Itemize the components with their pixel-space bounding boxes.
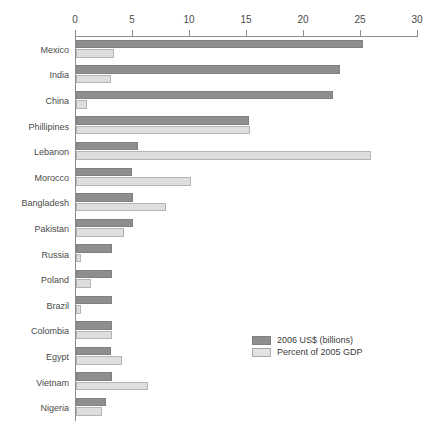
x-tick-label: 20: [297, 14, 308, 25]
bar-series-usd: [76, 398, 106, 407]
x-tick-mark: [132, 30, 133, 37]
x-tick-mark: [303, 30, 304, 37]
bar-series-usd: [76, 193, 133, 202]
x-tick-label: 30: [411, 14, 422, 25]
legend-swatch-icon-light: [252, 348, 271, 357]
bar-series-gdp-percent: [76, 331, 112, 340]
category-label: Mexico: [40, 45, 69, 55]
category-label: India: [49, 70, 69, 80]
bar-series-gdp-percent: [76, 279, 91, 288]
bar-row: India: [0, 63, 438, 89]
category-label: Russia: [41, 250, 69, 260]
bar-series-usd: [76, 65, 340, 74]
legend-item-series-1: 2006 US$ (billions): [252, 336, 363, 345]
bar-series-gdp-percent: [76, 75, 111, 84]
bar-series-usd: [76, 91, 333, 100]
category-label: Egypt: [46, 352, 69, 362]
legend-label-series-1: 2006 US$ (billions): [277, 336, 353, 345]
bar-series-gdp-percent: [76, 100, 87, 109]
bar-row: Morocco: [0, 165, 438, 191]
bar-row: Egypt: [0, 344, 438, 370]
bar-series-usd: [76, 40, 363, 49]
bar-series-usd: [76, 142, 138, 151]
category-label: Poland: [41, 275, 69, 285]
bar-series-usd: [76, 347, 111, 356]
bar-series-gdp-percent: [76, 356, 122, 365]
bar-series-gdp-percent: [76, 151, 371, 160]
bar-row: Bangladesh: [0, 191, 438, 217]
bar-series-gdp-percent: [76, 382, 148, 391]
bar-series-usd: [76, 270, 112, 279]
bar-row: Brazil: [0, 293, 438, 319]
x-tick-label: 10: [183, 14, 194, 25]
category-label: Vietnam: [36, 378, 69, 388]
bar-series-usd: [76, 219, 133, 228]
category-label: Brazil: [46, 301, 69, 311]
category-label: Bangladesh: [21, 198, 69, 208]
category-label: Colombia: [31, 326, 69, 336]
category-label: Nigeria: [40, 403, 69, 413]
bar-row: Phillipines: [0, 114, 438, 140]
bar-row: Pakistan: [0, 216, 438, 242]
x-tick-mark: [189, 30, 190, 37]
x-tick-mark: [246, 30, 247, 37]
category-label: Pakistan: [34, 224, 69, 234]
bar-row: Mexico: [0, 37, 438, 63]
bar-series-gdp-percent: [76, 407, 102, 416]
category-label: Phillipines: [28, 122, 69, 132]
category-label: Lebanon: [34, 147, 69, 157]
chart-legend: 2006 US$ (billions) Percent of 2005 GDP: [252, 336, 363, 360]
plot-area: 051015202530 MexicoIndiaChinaPhillipines…: [0, 0, 438, 436]
legend-swatch-icon-dark: [252, 336, 271, 345]
x-tick-mark: [75, 30, 76, 37]
bar-series-gdp-percent: [76, 254, 81, 263]
x-tick-label: 25: [354, 14, 365, 25]
bar-row: Nigeria: [0, 395, 438, 421]
bar-series-usd: [76, 116, 249, 125]
bar-series-usd: [76, 244, 112, 253]
x-tick-mark: [417, 30, 418, 37]
bar-row: China: [0, 88, 438, 114]
bar-series-gdp-percent: [76, 49, 114, 58]
bar-series-usd: [76, 296, 112, 305]
bar-row: Lebanon: [0, 139, 438, 165]
bar-row: Colombia: [0, 319, 438, 345]
bar-series-gdp-percent: [76, 228, 124, 237]
x-tick-mark: [360, 30, 361, 37]
remittances-bar-chart: 051015202530 MexicoIndiaChinaPhillipines…: [0, 0, 438, 436]
bar-series-gdp-percent: [76, 177, 191, 186]
bar-series-gdp-percent: [76, 203, 166, 212]
category-label: Morocco: [34, 173, 69, 183]
bar-row: Vietnam: [0, 370, 438, 396]
legend-label-series-2: Percent of 2005 GDP: [277, 348, 363, 357]
bar-row: Russia: [0, 242, 438, 268]
category-label: China: [45, 96, 69, 106]
bar-series-gdp-percent: [76, 126, 250, 135]
x-tick-label: 0: [72, 14, 78, 25]
legend-item-series-2: Percent of 2005 GDP: [252, 348, 363, 357]
bar-series-usd: [76, 372, 112, 381]
bar-row: Poland: [0, 267, 438, 293]
x-tick-label: 15: [240, 14, 251, 25]
bar-series-gdp-percent: [76, 305, 81, 314]
bar-series-usd: [76, 321, 112, 330]
x-tick-label: 5: [129, 14, 135, 25]
bar-series-usd: [76, 168, 132, 177]
